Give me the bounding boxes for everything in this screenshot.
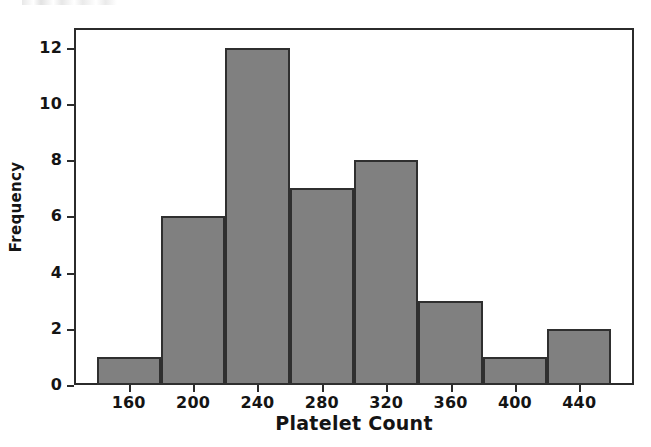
x-tick-label: 440	[549, 393, 609, 412]
histogram-bar	[547, 329, 611, 385]
bars-layer	[74, 28, 634, 385]
x-tick-mark	[257, 385, 259, 392]
x-tick-mark	[386, 385, 388, 392]
x-tick-label: 200	[163, 393, 223, 412]
y-tick-mark	[67, 385, 74, 387]
x-tick-mark	[129, 385, 131, 392]
x-tick-mark	[193, 385, 195, 392]
x-tick-mark	[451, 385, 453, 392]
y-tick-mark	[67, 216, 74, 218]
y-tick-mark	[67, 160, 74, 162]
y-axis-title: Frequency	[7, 161, 25, 252]
x-tick-label: 360	[421, 393, 481, 412]
y-tick-mark	[67, 104, 74, 106]
x-tick-label: 320	[356, 393, 416, 412]
x-tick-label: 240	[227, 393, 287, 412]
x-tick-label: 160	[99, 393, 159, 412]
x-tick-mark	[322, 385, 324, 392]
y-tick-mark	[67, 329, 74, 331]
y-tick-mark	[67, 273, 74, 275]
histogram-bar	[418, 301, 482, 385]
y-axis-title-wrapper: Frequency	[2, 28, 30, 385]
histogram-figure: 160200240280320360400440 024681012 Plate…	[0, 0, 651, 447]
histogram-bar	[483, 357, 547, 385]
x-axis-title: Platelet Count	[74, 412, 634, 434]
histogram-bar	[354, 160, 418, 385]
histogram-bar	[225, 48, 289, 385]
x-tick-label: 280	[292, 393, 352, 412]
histogram-bar	[290, 188, 354, 385]
histogram-bar	[97, 357, 161, 385]
x-tick-label: 400	[485, 393, 545, 412]
x-tick-mark	[515, 385, 517, 392]
y-tick-mark	[67, 48, 74, 50]
x-tick-mark	[579, 385, 581, 392]
histogram-bar	[161, 216, 225, 385]
